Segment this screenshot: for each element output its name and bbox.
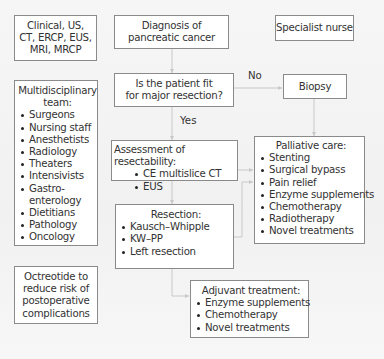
connector-resection-adjuvant (172, 268, 189, 296)
team-item: Nursing staff (18, 122, 97, 134)
assessment-title: Assessment of resectability: (114, 144, 237, 168)
team-item: Intensivists (18, 170, 97, 182)
resection-item: Left resection (119, 246, 233, 258)
assessment-item: EUS (132, 181, 237, 193)
adjuvant-item: Chemotherapy (194, 309, 308, 321)
team-item: Surgeons (18, 109, 97, 121)
palliative-item: Enzyme supplements (258, 189, 364, 201)
octreotide-line-4: complications (15, 308, 97, 320)
team-item: Dietitians (18, 207, 97, 219)
resection-box: Resection: Kausch–Whipple KW–PP Left res… (115, 204, 234, 269)
team-list: Surgeons Nursing staff Anesthetists Radi… (18, 109, 97, 243)
team-title-1: Multidisciplinary (18, 85, 97, 97)
edge-label-yes: Yes (180, 115, 196, 126)
assessment-box: Assessment of resectability: CE multisli… (111, 140, 238, 181)
palliative-item: Pain relief (258, 177, 364, 189)
octreotide-box: Octreotide to reduce risk of postoperati… (14, 266, 98, 324)
octreotide-line-3: postoperative (15, 295, 97, 307)
adjuvant-treatment-box: Adjuvant treatment: Enzyme supplements C… (190, 280, 309, 338)
specialist-nurse-label: Specialist nurse (276, 22, 353, 34)
octreotide-line-1: Octreotide to (15, 271, 97, 283)
palliative-item: Chemotherapy (258, 201, 364, 213)
resection-list: Kausch–Whipple KW–PP Left resection (119, 221, 233, 258)
fitness-question-box: Is the patient fit for major resection? (114, 73, 234, 107)
adjuvant-list: Enzyme supplements Chemotherapy Novel tr… (194, 297, 308, 334)
clinical-line-1: Clinical, US, (15, 20, 96, 32)
clinical-line-3: MRI, MRCP (15, 44, 96, 56)
adjuvant-title: Adjuvant treatment: (194, 285, 308, 297)
palliative-item: Radiotherapy (258, 213, 364, 225)
multidisciplinary-team-box: Multidisciplinary team: Surgeons Nursing… (14, 80, 98, 246)
fit-line-2: for major resection? (115, 90, 233, 102)
palliative-title: Palliative care: (258, 140, 364, 152)
diagram-canvas: Clinical, US, CT, ERCP, EUS, MRI, MRCP D… (0, 0, 384, 359)
team-title-2: team: (18, 97, 97, 109)
resection-item: KW–PP (119, 233, 233, 245)
team-item: Pathology (18, 219, 97, 231)
assessment-list: CE multislice CT EUS (132, 168, 237, 192)
palliative-care-box: Palliative care: Stenting Surgical bypas… (254, 136, 365, 244)
team-item: Radiology (18, 146, 97, 158)
team-item: Gastro- (18, 183, 97, 195)
team-item: Theaters (18, 158, 97, 170)
diagnosis-line-2: pancreatic cancer (115, 32, 228, 44)
palliative-item: Stenting (258, 152, 364, 164)
octreotide-line-2: reduce risk of (15, 283, 97, 295)
clinical-line-2: CT, ERCP, EUS, (15, 32, 96, 44)
palliative-list: Stenting Surgical bypass Pain relief Enz… (258, 152, 364, 237)
edge-label-no: No (248, 70, 262, 81)
diagnosis-line-1: Diagnosis of (115, 20, 228, 32)
resection-title: Resection: (119, 209, 233, 221)
specialist-nurse-box: Specialist nurse (275, 15, 354, 41)
biopsy-box: Biopsy (283, 74, 347, 99)
palliative-item: Novel treatments (258, 225, 364, 237)
resection-item: Kausch–Whipple (119, 221, 233, 233)
diagnosis-box: Diagnosis of pancreatic cancer (114, 15, 229, 49)
palliative-item: Surgical bypass (258, 164, 364, 176)
clinical-investigations-box: Clinical, US, CT, ERCP, EUS, MRI, MRCP (14, 15, 97, 61)
adjuvant-item: Enzyme supplements (194, 297, 308, 309)
adjuvant-item: Novel treatments (194, 322, 308, 334)
assessment-item: CE multislice CT (132, 168, 237, 180)
team-item: Oncology (18, 231, 97, 243)
team-item-continuation: enterology (18, 195, 97, 207)
biopsy-label: Biopsy (284, 81, 346, 93)
team-item: Anesthetists (18, 134, 97, 146)
fit-line-1: Is the patient fit (115, 78, 233, 90)
